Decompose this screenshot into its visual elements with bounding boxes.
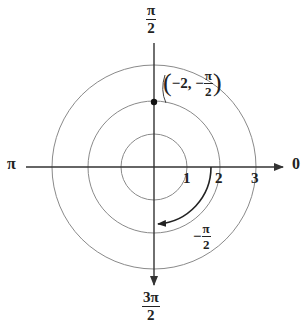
- radial-tick-1: 1: [183, 170, 191, 187]
- point-label: (−2, −π2): [163, 68, 222, 98]
- angle-label: −π2: [193, 222, 211, 251]
- plotted-point: [151, 99, 157, 105]
- radial-tick-2: 2: [215, 170, 223, 187]
- polar-diagram: [0, 0, 307, 330]
- axis-label-right: 0: [292, 155, 300, 173]
- axis-label-top: π2: [146, 3, 156, 36]
- axis-label-bottom: 3π2: [142, 290, 160, 323]
- radial-tick-3: 3: [251, 170, 259, 187]
- axis-label-left: π: [7, 155, 16, 173]
